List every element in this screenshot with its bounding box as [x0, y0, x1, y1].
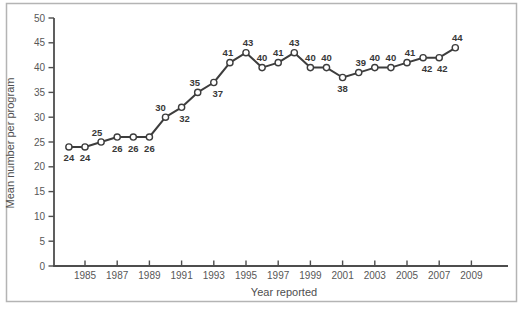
x-tick-label: 1987: [106, 270, 129, 281]
data-point-marker: [420, 55, 426, 61]
data-point-marker: [436, 55, 442, 61]
x-tick-label: 1999: [299, 270, 322, 281]
line-chart: 0510152025303540455019851987198919911993…: [0, 0, 522, 314]
data-point-label: 42: [422, 63, 433, 74]
y-tick-label: 40: [34, 62, 46, 73]
data-point-marker: [291, 50, 297, 56]
x-tick-label: 1995: [235, 270, 258, 281]
data-point-marker: [211, 79, 217, 85]
data-point-marker: [195, 89, 201, 95]
data-point-label: 44: [452, 32, 463, 43]
data-point-label: 26: [144, 143, 155, 154]
figure-canvas: 0510152025303540455019851987198919911993…: [0, 0, 522, 314]
data-point-marker: [227, 60, 233, 66]
data-point-marker: [114, 134, 120, 140]
data-point-label: 40: [386, 52, 397, 63]
data-point-marker: [82, 144, 88, 150]
y-tick-label: 50: [34, 13, 46, 24]
data-point-marker: [356, 69, 362, 75]
data-point-marker: [179, 104, 185, 110]
x-tick-label: 2005: [396, 270, 419, 281]
data-point-marker: [66, 144, 72, 150]
data-point-label: 43: [243, 37, 254, 48]
data-point-label: 30: [155, 102, 166, 113]
data-point-label: 38: [337, 83, 348, 94]
data-point-marker: [130, 134, 136, 140]
data-point-marker: [307, 65, 313, 71]
data-point-marker: [275, 60, 281, 66]
data-point-marker: [98, 139, 104, 145]
data-point-marker: [388, 65, 394, 71]
y-tick-label: 5: [39, 236, 45, 247]
data-point-label: 41: [223, 47, 234, 58]
x-tick-label: 2001: [331, 270, 354, 281]
y-axis-title: Mean number per program: [4, 78, 16, 209]
data-point-marker: [452, 45, 458, 51]
y-tick-label: 20: [34, 161, 46, 172]
y-tick-label: 0: [39, 261, 45, 272]
data-point-label: 43: [289, 37, 300, 48]
data-point-label: 35: [189, 77, 200, 88]
data-point-label: 40: [370, 52, 381, 63]
data-point-marker: [162, 114, 168, 120]
data-point-marker: [146, 134, 152, 140]
data-point-label: 41: [405, 47, 416, 58]
data-point-label: 26: [112, 143, 123, 154]
data-point-marker: [243, 50, 249, 56]
data-point-label: 32: [179, 113, 190, 124]
data-point-label: 26: [128, 143, 139, 154]
x-tick-label: 2009: [460, 270, 483, 281]
y-tick-label: 25: [34, 137, 46, 148]
data-point-label: 40: [257, 52, 268, 63]
x-tick-label: 1997: [267, 270, 290, 281]
x-tick-label: 1985: [74, 270, 97, 281]
x-axis-title: Year reported: [251, 286, 317, 298]
data-point-label: 40: [305, 52, 316, 63]
y-tick-label: 15: [34, 186, 46, 197]
data-point-label: 24: [64, 152, 75, 163]
data-point-marker: [372, 65, 378, 71]
data-point-label: 39: [355, 57, 366, 68]
data-point-marker: [259, 65, 265, 71]
data-point-label: 24: [80, 152, 91, 163]
data-point-label: 41: [273, 47, 284, 58]
data-point-label: 40: [321, 52, 332, 63]
y-tick-label: 10: [34, 211, 46, 222]
x-tick-label: 2007: [428, 270, 451, 281]
x-tick-label: 1993: [203, 270, 226, 281]
y-tick-label: 45: [34, 37, 46, 48]
data-point-marker: [340, 74, 346, 80]
x-tick-label: 2003: [364, 270, 387, 281]
data-point-label: 25: [92, 127, 103, 138]
data-point-marker: [323, 65, 329, 71]
data-point-label: 42: [437, 63, 448, 74]
x-tick-label: 1991: [170, 270, 193, 281]
y-tick-label: 35: [34, 87, 46, 98]
y-tick-label: 30: [34, 112, 46, 123]
data-point-label: 37: [213, 88, 224, 99]
x-tick-label: 1989: [138, 270, 161, 281]
data-point-marker: [404, 60, 410, 66]
